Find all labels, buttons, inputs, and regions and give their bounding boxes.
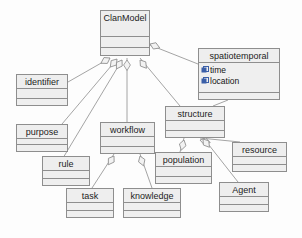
class-name-knowledge: knowledge	[124, 189, 180, 203]
class-operations-workflow	[101, 147, 154, 154]
class-name-purpose: purpose	[17, 125, 67, 139]
aggregation-diamond-icon	[137, 155, 147, 167]
class-box-population[interactable]: population	[155, 152, 212, 184]
edge-e-task	[92, 154, 114, 188]
class-attributes-agent	[220, 197, 268, 205]
class-name-task: task	[67, 189, 113, 203]
class-operations-population	[156, 177, 211, 184]
edge-e-spatiotemporal	[150, 45, 198, 64]
edge-e-identifier	[68, 58, 110, 82]
class-box-agent[interactable]: Agent	[219, 182, 269, 212]
class-box-resource[interactable]: resource	[232, 142, 287, 172]
class-name-clanmodel: ClanModel	[101, 11, 149, 37]
edge-e-structure	[140, 58, 180, 106]
class-attributes-workflow	[101, 137, 154, 147]
aggregation-diamond-icon	[178, 139, 187, 151]
class-attributes-structure	[166, 121, 224, 131]
aggregation-diamond-icon	[200, 137, 212, 149]
class-attributes-spatiotemporal: timelocation	[199, 63, 279, 93]
class-attributes-identifier	[17, 89, 67, 99]
class-operations-task	[67, 211, 113, 217]
class-attributes-knowledge	[124, 203, 180, 211]
attribute-marker-icon	[201, 77, 209, 85]
class-attributes-clanmodel	[101, 37, 149, 48]
class-operations-purpose	[17, 145, 67, 151]
edge-e-population	[180, 138, 184, 152]
attribute-row: location	[201, 75, 277, 86]
aggregation-diamond-icon	[137, 58, 149, 70]
class-operations-structure	[166, 131, 224, 138]
aggregation-diamond-icon	[149, 41, 161, 51]
edge-e-knowledge	[140, 154, 152, 188]
aggregation-diamond-icon	[105, 154, 116, 167]
class-operations-rule	[43, 179, 89, 185]
class-attributes-rule	[43, 171, 89, 179]
class-name-structure: structure	[166, 107, 224, 121]
class-operations-identifier	[17, 99, 67, 106]
class-name-spatiotemporal: spatiotemporal	[199, 49, 279, 63]
class-box-structure[interactable]: structure	[165, 106, 225, 138]
class-box-task[interactable]: task	[66, 188, 114, 218]
class-box-clanmodel[interactable]: ClanModel	[100, 10, 150, 56]
class-box-knowledge[interactable]: knowledge	[123, 188, 181, 218]
class-name-agent: Agent	[220, 183, 268, 197]
aggregation-diamond-icon	[108, 57, 120, 69]
aggregation-diamond-icon	[99, 55, 111, 66]
aggregation-diamond-icon	[114, 58, 125, 71]
aggregation-diamond-icon	[124, 60, 131, 71]
class-name-workflow: workflow	[101, 123, 154, 137]
aggregation-diamond-icon	[199, 137, 211, 146]
attribute-label: time	[210, 65, 226, 75]
class-operations-clanmodel	[101, 48, 149, 56]
class-name-identifier: identifier	[17, 75, 67, 89]
class-box-rule[interactable]: rule	[42, 156, 90, 186]
class-name-resource: resource	[233, 143, 286, 157]
class-box-workflow[interactable]: workflow	[100, 122, 155, 154]
attribute-row: time	[201, 64, 277, 75]
class-box-spatiotemporal[interactable]: spatiotemporaltimelocation	[198, 48, 280, 100]
attribute-marker-icon	[201, 66, 209, 74]
class-operations-spatiotemporal	[199, 93, 279, 99]
class-box-identifier[interactable]: identifier	[16, 74, 68, 106]
class-operations-knowledge	[124, 211, 180, 217]
class-attributes-population	[156, 167, 211, 177]
class-name-population: population	[156, 153, 211, 167]
edge-e-purpose	[62, 59, 117, 124]
class-operations-agent	[220, 205, 268, 211]
class-attributes-resource	[233, 157, 286, 165]
class-operations-resource	[233, 165, 286, 171]
class-name-rule: rule	[43, 157, 89, 171]
class-box-purpose[interactable]: purpose	[16, 124, 68, 152]
class-attributes-task	[67, 203, 113, 211]
attribute-label: location	[210, 76, 239, 86]
uml-class-diagram: ClanModelspatiotemporaltimelocationident…	[0, 0, 302, 238]
